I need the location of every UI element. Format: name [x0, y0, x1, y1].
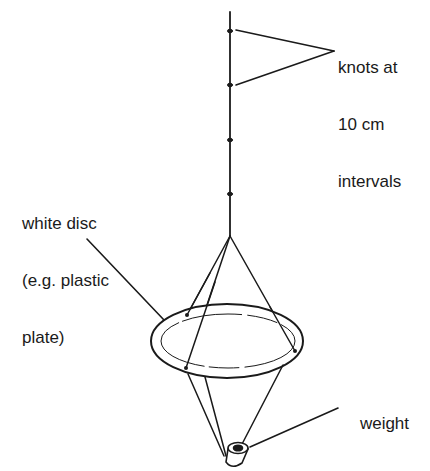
- label-knots-line3: intervals: [338, 172, 401, 191]
- label-weight: weight: [341, 395, 409, 452]
- string-lower-1: [188, 374, 224, 456]
- secchi-disc-diagram: knots at 10 cm intervals white disc (e.g…: [0, 0, 430, 471]
- label-disc-line1: white disc: [22, 214, 109, 233]
- label-disc: white disc (e.g. plastic plate): [22, 176, 109, 385]
- string-lower-2: [205, 377, 226, 456]
- label-knots-line1: knots at: [338, 58, 401, 77]
- knot-leader-lower: [236, 51, 334, 85]
- label-disc-line3: plate): [22, 328, 109, 347]
- label-knots-line2: 10 cm: [338, 115, 401, 134]
- weight-leader: [250, 408, 338, 447]
- weight-cylinder: [226, 443, 248, 467]
- label-weight-text: weight: [360, 414, 409, 433]
- knot-leader-upper: [236, 30, 334, 51]
- disc-rim: [151, 304, 303, 378]
- label-disc-line2: (e.g. plastic: [22, 271, 109, 290]
- label-knots: knots at 10 cm intervals: [338, 20, 401, 229]
